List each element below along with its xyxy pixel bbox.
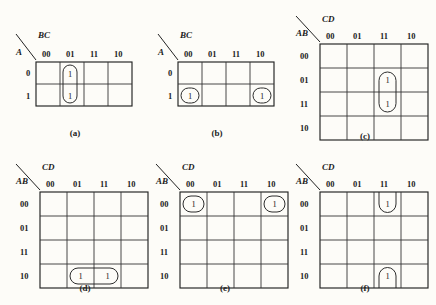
col-header-d-1: 01 xyxy=(73,179,82,189)
col-header-c-2: 11 xyxy=(380,31,388,41)
row-header-d-1: 01 xyxy=(20,223,29,233)
kmap-d: CD AB 00 01 11 10 00 01 11 10 1 1 xyxy=(14,160,149,280)
col-header-e-0: 00 xyxy=(186,179,195,189)
col-header-e-1: 01 xyxy=(213,179,222,189)
row-header-a-1: 1 xyxy=(26,91,30,101)
col-header-f-1: 01 xyxy=(353,179,362,189)
col-header-a-0: 00 xyxy=(42,49,51,59)
grid-d xyxy=(40,192,148,288)
col-header-c-0: 00 xyxy=(326,31,335,41)
row-header-d-0: 00 xyxy=(20,199,29,209)
col-var-label-c: CD xyxy=(322,14,335,24)
cell-a-1-01: 1 xyxy=(68,91,72,101)
col-var-label-e: CD xyxy=(182,162,195,172)
col-header-c-1: 01 xyxy=(353,31,362,41)
cell-b-1-10: 1 xyxy=(260,91,264,101)
col-header-a-1: 01 xyxy=(66,49,75,59)
grid-c xyxy=(320,44,428,140)
cell-c-01-11: 1 xyxy=(385,75,389,85)
caption-c: (c) xyxy=(345,131,385,141)
row-header-d-2: 11 xyxy=(20,247,28,257)
cell-d-10-01: 1 xyxy=(78,271,82,281)
caption-a: (a) xyxy=(55,128,95,138)
col-header-f-2: 11 xyxy=(380,179,388,189)
figure-sheet: BC A 00 01 11 10 0 1 1 1 (a) xyxy=(0,0,436,305)
row-header-e-1: 01 xyxy=(160,223,169,233)
cell-e-00-00: 1 xyxy=(191,199,195,209)
col-var-label-d: CD xyxy=(42,162,55,172)
kmap-b: BC A 00 01 11 10 0 1 1 1 xyxy=(156,26,276,118)
cell-b-1-00: 1 xyxy=(188,91,192,101)
caption-d: (d) xyxy=(65,283,105,293)
caption-b: (b) xyxy=(197,128,237,138)
cell-e-00-10: 1 xyxy=(272,199,276,209)
cell-d-10-11: 1 xyxy=(105,271,109,281)
col-header-b-0: 00 xyxy=(184,49,193,59)
col-header-e-2: 11 xyxy=(240,179,248,189)
row-var-label-b: A xyxy=(157,47,164,57)
cell-c-11-11: 1 xyxy=(385,99,389,109)
row-header-c-2: 11 xyxy=(300,99,308,109)
kmap-f: CD AB 00 01 11 10 00 01 11 10 1 1 xyxy=(294,160,429,280)
col-header-d-3: 10 xyxy=(127,179,136,189)
row-header-b-0: 0 xyxy=(168,68,172,78)
row-var-label-c: AB xyxy=(295,28,308,38)
row-var-label-f: AB xyxy=(295,176,308,186)
row-header-e-3: 10 xyxy=(160,271,169,281)
col-var-label-f: CD xyxy=(322,162,335,172)
row-var-label-d: AB xyxy=(15,176,28,186)
col-var-label-a: BC xyxy=(37,30,51,40)
row-var-label-a: A xyxy=(15,47,22,57)
col-header-e-3: 10 xyxy=(267,179,276,189)
kmap-a: BC A 00 01 11 10 0 1 1 1 xyxy=(14,26,134,118)
col-header-b-3: 10 xyxy=(256,49,265,59)
col-header-a-2: 11 xyxy=(90,49,98,59)
caption-e: (e) xyxy=(205,283,245,293)
row-header-f-1: 01 xyxy=(300,223,309,233)
row-header-b-1: 1 xyxy=(168,91,172,101)
col-header-c-3: 10 xyxy=(407,31,416,41)
row-var-label-e: AB xyxy=(155,176,168,186)
kmap-e: CD AB 00 01 11 10 00 01 11 10 1 1 xyxy=(154,160,289,280)
row-header-f-0: 00 xyxy=(300,199,309,209)
col-header-d-0: 00 xyxy=(46,179,55,189)
row-header-d-3: 10 xyxy=(20,271,29,281)
row-header-f-2: 11 xyxy=(300,247,308,257)
kmap-c: CD AB 00 01 11 10 00 01 11 10 1 1 xyxy=(294,12,429,132)
col-header-f-0: 00 xyxy=(326,179,335,189)
col-var-label-b: BC xyxy=(179,30,193,40)
col-header-b-2: 11 xyxy=(232,49,240,59)
cell-a-0-01: 1 xyxy=(68,69,72,79)
grid-f xyxy=(320,192,428,288)
col-header-a-3: 10 xyxy=(114,49,123,59)
col-header-f-3: 10 xyxy=(407,179,416,189)
row-header-e-2: 11 xyxy=(160,247,168,257)
grid-a xyxy=(36,62,132,106)
row-header-f-3: 10 xyxy=(300,271,309,281)
row-header-c-1: 01 xyxy=(300,75,309,85)
caption-f: (f) xyxy=(345,283,385,293)
col-header-d-2: 11 xyxy=(100,179,108,189)
cell-f-10-11: 1 xyxy=(385,271,389,281)
row-header-c-3: 10 xyxy=(300,123,309,133)
cell-f-00-11: 1 xyxy=(385,199,389,209)
row-header-e-0: 00 xyxy=(160,199,169,209)
row-header-c-0: 00 xyxy=(300,51,309,61)
row-header-a-0: 0 xyxy=(26,68,30,78)
col-header-b-1: 01 xyxy=(208,49,217,59)
